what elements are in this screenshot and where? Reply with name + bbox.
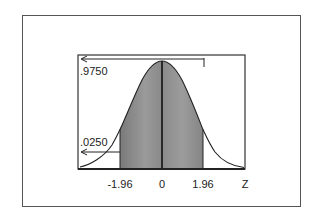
tick-label-neg: -1.96 bbox=[107, 178, 132, 190]
axis-label-z: Z bbox=[242, 178, 249, 190]
tick-label-zero: 0 bbox=[159, 178, 165, 190]
tick-label-pos: 1.96 bbox=[192, 178, 213, 190]
annotation-upper: .9750 bbox=[80, 65, 108, 77]
normal-distribution-chart: .9750 .0250 -1.96 0 1.96 Z bbox=[0, 0, 319, 219]
annotation-lower: .0250 bbox=[80, 136, 108, 148]
